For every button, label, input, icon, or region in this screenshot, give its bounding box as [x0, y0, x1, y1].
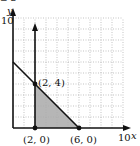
y-max-tick-label: 10: [1, 15, 14, 26]
point-label-2-4: (2, 4): [38, 77, 65, 88]
vertex-point-6-0: [77, 126, 82, 131]
point-label-6-0: (6, 0): [70, 134, 97, 145]
vertex-point-2-0: [33, 126, 38, 131]
vertex-point-2-4: [33, 82, 38, 87]
point-label-2-0: (2, 0): [23, 134, 50, 145]
x-axis-label: x: [131, 130, 137, 141]
x-axis-arrow-icon: [123, 125, 131, 131]
grid: [13, 18, 123, 128]
inequality-graph: y 10 10 x (2, 4) (2, 0) (6, 0): [0, 0, 140, 146]
x2-line-arrow-icon: [32, 23, 38, 31]
x-max-tick-label: 10: [118, 132, 131, 143]
